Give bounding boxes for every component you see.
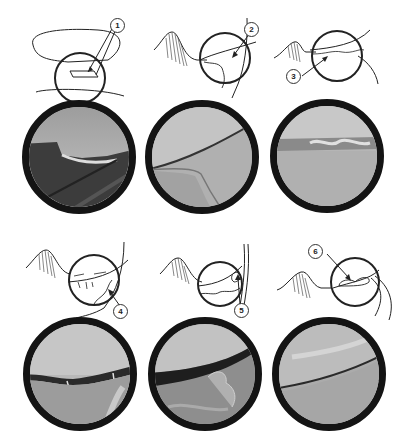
callout-3: 3 [286,69,301,84]
callout-2: 2 [244,22,259,37]
callout-4: 4 [113,304,128,319]
callout-1: 1 [110,18,125,33]
arthroscopic-view-4 [23,317,137,431]
cut-off-caption-line [0,442,401,448]
arthroscopic-view-6 [272,317,386,431]
arthroscopic-view-3 [270,99,384,213]
arthroscopic-view-5 [148,317,262,431]
arthroscopic-view-2 [145,100,259,214]
sketch-panel-6 [275,236,400,321]
arthroscopic-view-1 [22,100,136,214]
callout-6: 6 [308,244,323,259]
callout-5: 5 [234,303,249,318]
